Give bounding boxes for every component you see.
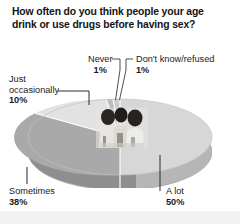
label-sometimes-value: 38% (9, 197, 55, 208)
label-dont-know-value: 1% (136, 65, 214, 76)
label-dont-know: Don't know/refused 1% (136, 54, 214, 75)
label-sometimes-name: Sometimes (9, 186, 55, 197)
leader-line-never (112, 59, 120, 100)
label-a-lot-name: A lot (166, 186, 184, 197)
label-never-name: Never (88, 54, 113, 65)
label-just-occasionally-value: 10% (9, 95, 59, 106)
leader-line-dont-know (120, 59, 134, 100)
label-sometimes: Sometimes 38% (9, 186, 55, 207)
label-just-occasionally-name-2: occasionally (9, 85, 59, 96)
label-never: Never 1% (88, 54, 113, 75)
label-just-occasionally: Just occasionally 10% (9, 74, 59, 106)
pie-chart-figure: How often do you think people your age d… (0, 0, 240, 224)
label-a-lot-value: 50% (166, 197, 184, 208)
label-never-value: 1% (88, 65, 113, 76)
label-just-occasionally-name-1: Just (9, 74, 59, 85)
label-a-lot: A lot 50% (166, 186, 184, 207)
label-dont-know-name: Don't know/refused (136, 54, 214, 65)
center-photo-teens (96, 108, 148, 149)
